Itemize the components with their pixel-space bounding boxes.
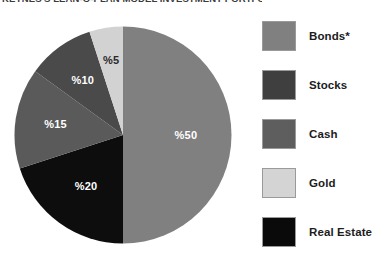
legend-swatch <box>262 217 296 247</box>
pie-slice-label: %10 <box>72 74 95 86</box>
pie-plot-area: %50%20%15%10%5 <box>14 26 232 244</box>
legend-item-label: Gold <box>309 177 336 189</box>
legend-item[interactable]: Bonds* <box>262 12 390 61</box>
legend-item-label: Bonds* <box>309 30 350 42</box>
legend-item-label: Stocks <box>309 79 347 91</box>
legend-swatch <box>262 21 296 51</box>
legend-swatch <box>262 70 296 100</box>
pie-chart-figure: KEYNES'S LEAN-O-PLAN MODEL INVESTMENT PO… <box>0 0 392 264</box>
legend-item[interactable]: Cash <box>262 110 390 159</box>
legend-item[interactable]: Gold <box>262 158 390 207</box>
legend-swatch <box>262 168 296 198</box>
legend-item-label: Cash <box>309 128 338 140</box>
chart-title: KEYNES'S LEAN-O-PLAN MODEL INVESTMENT PO… <box>2 0 262 4</box>
pie-slices-group <box>14 27 231 244</box>
pie-slice-label: %50 <box>175 129 198 141</box>
pie-svg: %50%20%15%10%5 <box>14 26 232 244</box>
pie-slice-label: %5 <box>103 54 119 66</box>
legend-item[interactable]: Stocks <box>262 61 390 110</box>
chart-legend: Bonds*StocksCashGoldReal Estate <box>262 12 390 256</box>
legend-item[interactable]: Real Estate <box>262 207 390 256</box>
pie-slice-label: %20 <box>75 180 98 192</box>
legend-item-label: Real Estate <box>309 226 372 238</box>
legend-swatch <box>262 119 296 149</box>
pie-slice-label: %15 <box>44 118 67 130</box>
